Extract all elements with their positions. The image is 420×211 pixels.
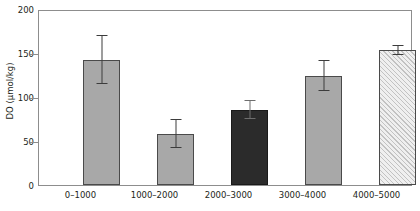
bar-group-0-1000 <box>83 9 120 185</box>
y-tick-label-0: 0 <box>8 182 34 190</box>
error-cap-bottom-0-1000 <box>96 83 107 84</box>
bar-group-3000-4000 <box>305 9 342 185</box>
bar-3000-4000 <box>305 76 342 185</box>
x-tick-label-4000-5000: 4000–5000 <box>337 191 416 200</box>
error-cap-bottom-3000-4000 <box>318 90 329 91</box>
error-bar-2000-3000 <box>249 101 250 119</box>
x-tick-label-1000-2000: 1000–2000 <box>115 191 194 200</box>
x-tick-label-0-1000: 0–1000 <box>41 191 120 200</box>
y-tick-mark-150 <box>30 54 38 55</box>
error-cap-bottom-4000-5000 <box>392 54 403 55</box>
bar-chart-figure: 200 150 100 50 0 DO (μmol/kg) <box>0 0 420 211</box>
error-cap-top-1000-2000 <box>170 119 181 120</box>
error-cap-top-0-1000 <box>96 35 107 36</box>
plot-area <box>38 10 412 186</box>
error-cap-top-3000-4000 <box>318 60 329 61</box>
bar-group-1000-2000 <box>157 9 194 185</box>
bar-2000-3000 <box>231 110 268 185</box>
error-cap-bottom-1000-2000 <box>170 147 181 148</box>
y-axis: 200 150 100 50 0 DO (μmol/kg) <box>0 0 34 211</box>
error-bar-1000-2000 <box>175 120 176 148</box>
y-tick-mark-50 <box>30 142 38 143</box>
x-tick-label-2000-3000: 2000–3000 <box>189 191 268 200</box>
bar-group-4000-5000 <box>379 9 416 185</box>
error-cap-top-4000-5000 <box>392 45 403 46</box>
error-cap-bottom-2000-3000 <box>244 118 255 119</box>
x-tick-label-3000-4000: 3000–4000 <box>263 191 342 200</box>
error-bar-3000-4000 <box>323 61 324 91</box>
error-cap-top-2000-3000 <box>244 100 255 101</box>
bar-group-2000-3000 <box>231 9 268 185</box>
y-tick-label-200: 200 <box>8 6 34 14</box>
error-bar-0-1000 <box>101 36 102 84</box>
y-axis-title: DO (μmol/kg) <box>5 55 15 127</box>
bar-4000-5000 <box>379 50 416 185</box>
y-tick-mark-100 <box>30 98 38 99</box>
